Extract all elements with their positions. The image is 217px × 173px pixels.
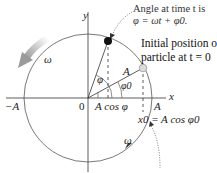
angle-phi-label: φ	[97, 74, 103, 85]
y-axis-label: y	[83, 10, 88, 21]
x-axis-label: x	[169, 91, 174, 102]
angle-annotation-line1: Angle at time t is	[133, 3, 205, 15]
angle-phi0-label: φ0	[121, 81, 132, 91]
angle-annotation-line2: φ = ωt + φ0.	[133, 15, 205, 27]
initial-position-line2: particle at t = 0	[141, 50, 217, 64]
radius-label: A	[123, 66, 130, 77]
angle-annotation: Angle at time t is φ = ωt + φ0.	[133, 3, 205, 27]
leader-angle	[112, 12, 132, 36]
radius-current	[88, 41, 108, 98]
neg-amplitude-label: −A	[5, 101, 19, 112]
omega-top-label: ω	[44, 54, 52, 65]
particle-current-position	[104, 37, 112, 45]
particle-initial-position	[139, 64, 147, 72]
origin-label: 0	[79, 101, 85, 112]
projection-label: A cos φ	[95, 101, 128, 112]
initial-position-annotation: Initial position of particle at t = 0	[141, 36, 217, 64]
x0-equation-label: x0 = A cos φ0	[138, 114, 199, 125]
pos-amplitude-label: A	[154, 101, 161, 112]
omega-bottom-label: ω	[124, 135, 132, 146]
initial-position-line1: Initial position of	[141, 36, 217, 50]
leader-x0	[150, 124, 160, 168]
